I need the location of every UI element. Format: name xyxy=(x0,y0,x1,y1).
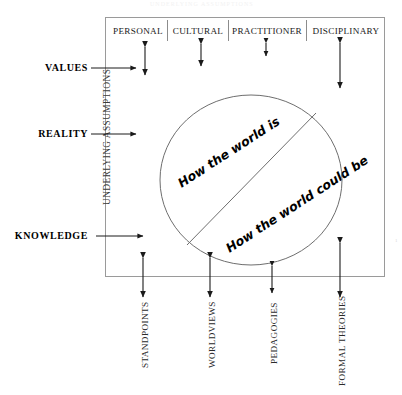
diagram-canvas: UNDERLYING ASSUMPTIONS PERSONAL CULTURAL… xyxy=(0,0,402,395)
circle-diagonal-divider xyxy=(187,113,316,245)
vector-overlay xyxy=(0,0,402,395)
